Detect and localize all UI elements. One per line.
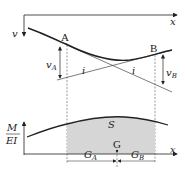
tangent-a-angle-label: i — [82, 65, 85, 76]
tangent-b-angle-label: i — [132, 65, 135, 76]
area-label: S — [108, 119, 115, 130]
x-axis-top-label: x — [170, 16, 176, 27]
moment-area-plot: x M EI S G GA GB — [5, 117, 177, 168]
v-axis-label: v — [12, 28, 18, 39]
centroid-label: G — [113, 138, 121, 150]
deflection-plot: x v A B vA vB i i — [12, 15, 177, 92]
point-b-label: B — [150, 42, 157, 54]
point-a-label: A — [61, 31, 69, 43]
deflection-a-label: vA — [46, 59, 57, 72]
m-over-ei-denominator: EI — [5, 135, 18, 146]
m-over-ei-numerator: M — [6, 122, 18, 133]
moment-x-axis-label: x — [170, 144, 176, 155]
beam-deflection-diagram: x v A B vA vB i i x M EI S G — [0, 0, 185, 186]
deflection-b-label: vB — [166, 67, 177, 80]
